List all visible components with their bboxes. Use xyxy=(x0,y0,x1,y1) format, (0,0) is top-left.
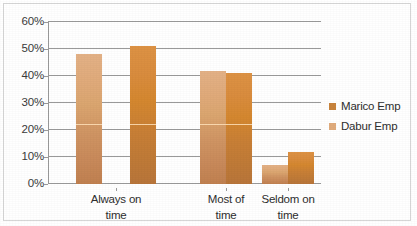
plot-area xyxy=(48,22,321,184)
x-axis-label-line: Always on xyxy=(76,192,156,208)
bar-gradient-seam xyxy=(226,124,252,125)
x-axis-category-label: Seldom ontime xyxy=(248,192,328,223)
bar-gradient-seam xyxy=(130,124,156,125)
y-axis-tick xyxy=(44,22,48,23)
y-axis-labels: 0%10%20%30%40%50%60% xyxy=(4,22,44,184)
x-axis-labels: Always ontimeMost oftimeSeldom ontime xyxy=(48,188,321,226)
legend-item[interactable]: Marico Emp xyxy=(329,96,417,116)
x-axis-tick xyxy=(226,188,227,191)
x-axis-label-line: time xyxy=(248,208,328,224)
x-axis-label-line: Seldom on xyxy=(248,192,328,208)
legend-swatch-icon xyxy=(329,123,336,130)
gridline xyxy=(48,48,321,49)
gridline xyxy=(48,21,321,22)
y-axis-tick-label: 60% xyxy=(8,16,44,28)
y-axis-tick xyxy=(44,157,48,158)
y-axis-tick-label: 0% xyxy=(8,178,44,190)
legend-item[interactable]: Dabur Emp xyxy=(329,116,417,136)
y-axis-tick-label: 30% xyxy=(8,97,44,109)
y-axis-tick xyxy=(44,103,48,104)
legend-label: Marico Emp xyxy=(341,100,400,112)
y-axis-tick-label: 40% xyxy=(8,70,44,82)
y-axis-tick xyxy=(44,130,48,131)
x-axis-category-label: Always ontime xyxy=(76,192,156,223)
x-axis-tick xyxy=(288,188,289,191)
y-axis-tick xyxy=(44,49,48,50)
bar xyxy=(130,46,156,184)
legend-label: Dabur Emp xyxy=(341,120,397,132)
bar-gradient-seam xyxy=(76,124,102,125)
y-axis-tick xyxy=(44,184,48,185)
y-axis-tick-label: 10% xyxy=(8,151,44,163)
bar xyxy=(200,71,226,184)
bar xyxy=(226,73,252,184)
y-axis-line xyxy=(48,22,49,184)
bar xyxy=(262,165,288,184)
y-axis-tick xyxy=(44,76,48,77)
bar xyxy=(76,54,102,184)
bar-gradient-seam xyxy=(200,124,226,125)
chart-legend: Marico EmpDabur Emp xyxy=(329,96,417,136)
chart-container: 0%10%20%30%40%50%60% Always ontimeMost o… xyxy=(3,3,411,221)
x-axis-label-line: time xyxy=(76,208,156,224)
x-axis-tick xyxy=(116,188,117,191)
bar xyxy=(288,152,314,184)
y-axis-tick-label: 20% xyxy=(8,124,44,136)
y-axis-tick-label: 50% xyxy=(8,43,44,55)
legend-swatch-icon xyxy=(329,103,336,110)
